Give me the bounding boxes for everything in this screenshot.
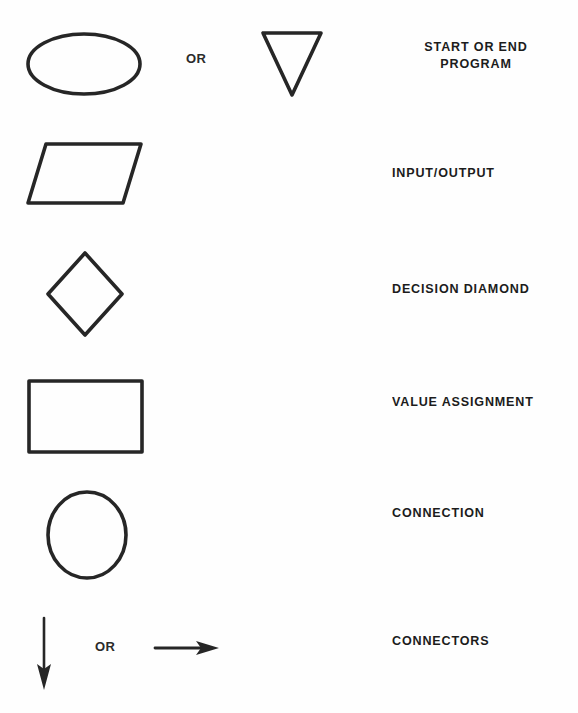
down-triangle-symbol [250, 20, 340, 110]
ellipse-symbol [0, 0, 160, 120]
parallelogram-symbol [0, 120, 170, 235]
legend-label-decision: DECISION DIAMOND [392, 280, 559, 297]
diamond-symbol [0, 235, 170, 360]
rectangle-symbol [0, 360, 170, 470]
down-arrow-symbol [0, 590, 110, 713]
legend-label-input-output: INPUT/OUTPUT [392, 164, 559, 181]
flowchart-legend-page: OR START OR END PROGRAM INPUT/OUTPUT DEC… [0, 0, 578, 713]
legend-label-connectors: CONNECTORS [392, 632, 559, 649]
legend-row-connectors: OR CONNECTORS [0, 590, 578, 713]
legend-row-value-assignment: VALUE ASSIGNMENT [0, 360, 578, 470]
circle-symbol [0, 470, 170, 590]
legend-row-start-end: OR START OR END PROGRAM [0, 0, 578, 120]
legend-label-start-end: START OR END PROGRAM [396, 38, 556, 72]
legend-row-decision: DECISION DIAMOND [0, 235, 578, 360]
legend-label-connection: CONNECTION [392, 504, 559, 521]
legend-row-input-output: INPUT/OUTPUT [0, 120, 578, 235]
or-separator-label: OR [95, 640, 115, 653]
or-separator-label: OR [186, 52, 206, 65]
legend-label-value-assignment: VALUE ASSIGNMENT [392, 393, 559, 410]
legend-row-connection: CONNECTION [0, 470, 578, 590]
right-arrow-symbol [145, 618, 245, 678]
